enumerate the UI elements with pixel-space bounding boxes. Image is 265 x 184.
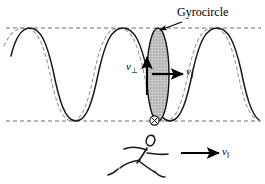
running-stick-figure: [108, 134, 168, 177]
v-perpendicular-subscript: ⊥: [131, 66, 138, 75]
v-parallel-subscript: ‖: [191, 71, 193, 80]
gyrocircle-figure: Gyrocircle v⊥ v‖ v‖: [0, 0, 265, 184]
v-perpendicular-label: v⊥: [126, 61, 138, 75]
runner-velocity-label: v‖: [222, 146, 229, 160]
gyrocircle-label: Gyrocircle: [177, 6, 228, 18]
field-out-of-page-symbol: [150, 116, 159, 125]
runner-velocity-subscript: ‖: [227, 151, 229, 160]
v-parallel-label: v‖: [186, 66, 193, 80]
gyrocircle-leader-line: [160, 22, 182, 30]
